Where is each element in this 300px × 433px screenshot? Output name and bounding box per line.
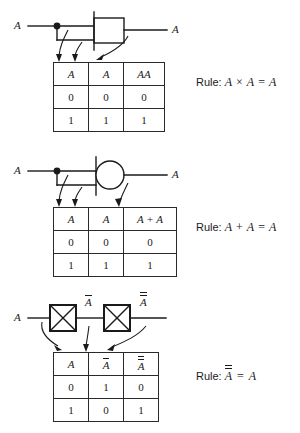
table-cell: 1 bbox=[124, 399, 159, 422]
rule-operator: + bbox=[236, 220, 243, 234]
rule-statement-or: Rule:A+A=A bbox=[196, 220, 276, 235]
rule-equals: = bbox=[258, 75, 265, 89]
table-cell: 1 bbox=[89, 376, 124, 399]
table-cell: 0 bbox=[89, 231, 124, 254]
rule-block-and: A A A A AA 0 0 0 1 1 1 bbox=[0, 0, 300, 145]
truth-table-and: A A AA 0 0 0 1 1 1 bbox=[53, 62, 165, 132]
table-header-cell: A bbox=[54, 63, 89, 86]
table-cell: 0 bbox=[54, 376, 89, 399]
table-cell: 0 bbox=[54, 86, 89, 109]
table-cell: 0 bbox=[124, 231, 177, 254]
table-header-row: A A A bbox=[54, 353, 159, 376]
header-inner: A bbox=[138, 359, 145, 372]
table-cell: 1 bbox=[89, 254, 124, 277]
table-cell: 1 bbox=[54, 399, 89, 422]
rule-equals: = bbox=[237, 369, 244, 383]
circuit-diagram-and: A A bbox=[0, 0, 200, 62]
table-cell: 0 bbox=[54, 231, 89, 254]
rule-operand-left: A bbox=[225, 75, 232, 89]
table-cell: 1 bbox=[54, 254, 89, 277]
table-header-cell: A bbox=[54, 208, 89, 231]
table-row: 0 1 0 bbox=[54, 376, 159, 399]
table-row: 1 0 1 bbox=[54, 399, 159, 422]
junction-dot bbox=[54, 23, 61, 30]
header-text-double-overbar: A bbox=[138, 356, 145, 372]
truth-table-or: A A A + A 0 0 0 1 1 1 bbox=[53, 207, 177, 277]
table-header-cell: A bbox=[89, 208, 124, 231]
output-signal-label: A bbox=[172, 169, 179, 180]
rule-label: Rule: bbox=[196, 221, 222, 233]
rule-operand-right: A bbox=[247, 220, 254, 234]
rule-label: Rule: bbox=[196, 370, 222, 382]
rule-result: A bbox=[269, 220, 276, 234]
double-overbar-wrap: A bbox=[140, 292, 147, 308]
table-cell: 0 bbox=[124, 376, 159, 399]
rule-label: Rule: bbox=[196, 76, 222, 88]
circuit-diagram-or: A A bbox=[0, 145, 200, 207]
input-signal-label: A bbox=[14, 312, 21, 323]
mid-signal-label: A bbox=[85, 295, 92, 308]
table-header-cell: A bbox=[54, 353, 89, 376]
table-row: 0 0 0 bbox=[54, 86, 165, 109]
table-header-row: A A AA bbox=[54, 63, 165, 86]
rule-equals: = bbox=[258, 220, 265, 234]
table-cell: 1 bbox=[54, 109, 89, 132]
rule-operand-right: A bbox=[247, 75, 254, 89]
rule-expression: A=A bbox=[225, 369, 256, 383]
rule-result: A bbox=[269, 75, 276, 89]
rule-operand-left: A bbox=[225, 220, 232, 234]
table-header-cell: A + A bbox=[124, 208, 177, 231]
rule-block-not: A A A A A bbox=[0, 290, 300, 433]
table-row: 1 1 1 bbox=[54, 254, 177, 277]
rule-expression: A+A=A bbox=[225, 220, 277, 234]
table-header-cell: A bbox=[124, 353, 159, 376]
table-header-cell: AA bbox=[124, 63, 165, 86]
table-header-cell: A bbox=[89, 353, 124, 376]
table-row: 0 0 0 bbox=[54, 231, 177, 254]
output-signal-label: A bbox=[140, 292, 147, 308]
table-cell: 0 bbox=[89, 86, 124, 109]
truth-table-not: A A A 0 1 0 1 bbox=[53, 352, 159, 422]
table-header-row: A A A + A bbox=[54, 208, 177, 231]
circuit-diagram-not: A A A bbox=[0, 290, 200, 352]
rule-expression: A×A=A bbox=[225, 75, 277, 89]
junction-dot bbox=[54, 168, 61, 175]
table-cell: 1 bbox=[124, 109, 165, 132]
rule-operand-double-overbar: A bbox=[225, 365, 232, 382]
table-cell: 0 bbox=[89, 399, 124, 422]
rule-operand-left: A bbox=[225, 368, 232, 382]
rule-result: A bbox=[249, 369, 256, 383]
double-overbar-text: A bbox=[140, 295, 147, 308]
table-header-cell: A bbox=[89, 63, 124, 86]
input-signal-label: A bbox=[14, 20, 21, 31]
output-signal-label: A bbox=[172, 24, 179, 35]
table-row: 1 1 1 bbox=[54, 109, 165, 132]
boolean-rules-figure: A A A A AA 0 0 0 1 1 1 bbox=[0, 0, 300, 433]
rule-statement-not: Rule:A=A bbox=[196, 365, 256, 384]
table-cell: 1 bbox=[89, 109, 124, 132]
header-text: A bbox=[68, 358, 75, 370]
table-cell: 1 bbox=[124, 254, 177, 277]
rule-operator: × bbox=[236, 75, 243, 89]
input-signal-label: A bbox=[14, 165, 21, 176]
overbar-wrap: A bbox=[85, 295, 92, 308]
table-cell: 0 bbox=[124, 86, 165, 109]
rule-statement-and: Rule:A×A=A bbox=[196, 75, 276, 90]
header-text-overbar: A bbox=[103, 358, 110, 371]
rule-block-or: A A A A A + A 0 0 0 1 1 1 bbox=[0, 145, 300, 290]
